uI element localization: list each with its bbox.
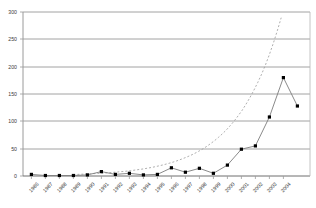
data-point xyxy=(72,174,75,177)
data-point xyxy=(142,173,145,176)
data-point xyxy=(128,172,131,175)
y-axis-label: 150 xyxy=(0,91,17,97)
data-point xyxy=(268,115,271,118)
data-point xyxy=(296,104,299,107)
data-point xyxy=(100,170,103,173)
y-axis-label: 300 xyxy=(0,9,17,15)
data-point xyxy=(170,166,173,169)
data-point xyxy=(184,171,187,174)
data-point xyxy=(226,164,229,167)
data-point xyxy=(254,144,257,147)
data-point xyxy=(30,173,33,176)
data-point xyxy=(198,167,201,170)
trendline xyxy=(73,18,281,175)
y-axis-label: 200 xyxy=(0,64,17,70)
data-point xyxy=(212,172,215,175)
y-axis-label: 50 xyxy=(0,146,17,152)
chart-container: 300 250 200 150 100 50 0 198619871988198… xyxy=(0,0,316,208)
data-point xyxy=(86,173,89,176)
data-point xyxy=(44,174,47,177)
data-point xyxy=(58,174,61,177)
data-point xyxy=(282,76,285,79)
y-axis-label: 250 xyxy=(0,36,17,42)
data-point xyxy=(156,173,159,176)
data-point xyxy=(114,173,117,176)
data-markers xyxy=(30,76,299,177)
data-line xyxy=(31,78,297,176)
data-point xyxy=(240,148,243,151)
plot-area xyxy=(0,0,316,208)
y-axis-label: 0 xyxy=(0,173,17,179)
y-axis-label: 100 xyxy=(0,118,17,124)
gridlines xyxy=(23,12,310,149)
